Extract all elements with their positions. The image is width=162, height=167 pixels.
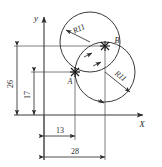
lower-radius-label: R11	[112, 68, 128, 83]
dimension-13: 13	[44, 126, 75, 136]
point-b-marker	[100, 41, 110, 51]
dim-28-label: 28	[71, 147, 79, 156]
dim-13-label: 13	[56, 126, 64, 135]
extension-lines	[14, 46, 106, 160]
engineering-drawing-canvas: y X R11 R11 A B	[0, 0, 162, 167]
point-b-label: B	[115, 36, 120, 45]
x-axis-label: X	[138, 119, 145, 129]
dimension-28: 28	[44, 147, 105, 157]
point-a-marker	[70, 67, 80, 77]
arc-arrow-lower	[93, 62, 101, 66]
point-markers: A B	[67, 36, 120, 86]
dimension-17: 17	[23, 72, 34, 115]
arc-arrow-upper	[84, 53, 92, 57]
point-a-label: A	[67, 77, 73, 86]
radius-leaders: R11 R11	[66, 22, 130, 92]
circle-geometry	[60, 12, 135, 102]
dim-17-label: 17	[23, 91, 32, 99]
dimension-26: 26	[6, 46, 17, 115]
dim-26-label: 26	[6, 80, 15, 88]
y-axis-label: y	[33, 13, 38, 23]
